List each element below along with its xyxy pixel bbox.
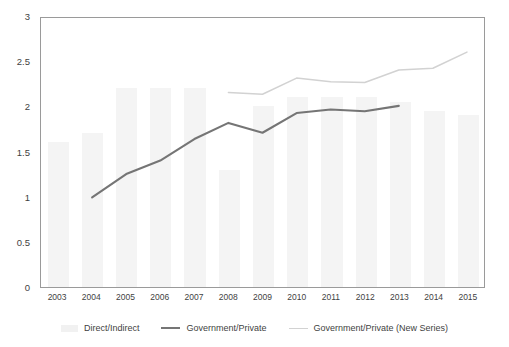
y-tick-label: 0.5 — [0, 238, 30, 248]
chart-container: 00.511.522.53 20032004200520062007200820… — [0, 0, 509, 347]
legend-item[interactable]: Direct/Indirect — [61, 323, 140, 334]
x-tick-label: 2010 — [280, 291, 314, 303]
x-tick-label: 2013 — [382, 291, 416, 303]
x-tick-label: 2011 — [314, 291, 348, 303]
x-axis-labels: 2003200420052006200720082009201020112012… — [40, 291, 485, 307]
x-tick-label: 2007 — [177, 291, 211, 303]
legend-label: Government/Private — [186, 323, 266, 334]
chart-legend: Direct/IndirectGovernment/PrivateGovernm… — [0, 318, 509, 338]
y-tick-label: 1 — [0, 193, 30, 203]
x-tick-label: 2005 — [108, 291, 142, 303]
legend-label: Government/Private (New Series) — [314, 323, 449, 334]
legend-item[interactable]: Government/Private — [161, 323, 266, 334]
legend-item[interactable]: Government/Private (New Series) — [289, 323, 449, 334]
line-series — [92, 106, 399, 197]
y-tick-label: 2 — [0, 102, 30, 112]
legend-line-light-icon — [289, 328, 308, 329]
x-tick-label: 2012 — [348, 291, 382, 303]
legend-bar-swatch-icon — [61, 325, 78, 332]
y-tick-label: 2.5 — [0, 57, 30, 67]
x-tick-label: 2008 — [211, 291, 245, 303]
x-tick-label: 2006 — [143, 291, 177, 303]
x-tick-label: 2009 — [245, 291, 279, 303]
line-series — [228, 52, 467, 94]
lines-layer — [41, 18, 484, 287]
y-tick-label: 0 — [0, 283, 30, 293]
y-tick-label: 3 — [0, 12, 30, 22]
x-tick-label: 2004 — [74, 291, 108, 303]
x-tick-label: 2015 — [451, 291, 485, 303]
plot-area — [40, 17, 485, 288]
x-tick-label: 2014 — [417, 291, 451, 303]
legend-line-dark-icon — [161, 327, 180, 329]
y-axis-labels: 00.511.522.53 — [0, 0, 36, 347]
x-tick-label: 2003 — [40, 291, 74, 303]
y-tick-label: 1.5 — [0, 148, 30, 158]
legend-label: Direct/Indirect — [84, 323, 140, 334]
